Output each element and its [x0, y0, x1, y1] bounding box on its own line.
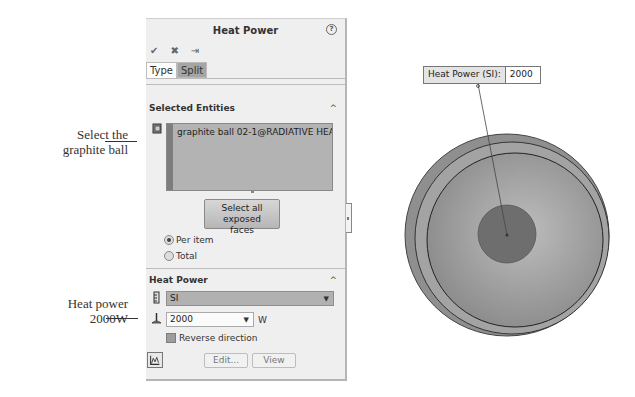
radio-button-selected[interactable]: [164, 235, 174, 245]
radio-label: Total: [176, 251, 197, 261]
panel-title: Heat Power: [146, 25, 345, 36]
list-resize-handle[interactable]: [251, 190, 254, 193]
select-all-exposed-faces-button[interactable]: Select all exposed faces: [204, 199, 280, 229]
tab-divider: [146, 78, 345, 79]
heat-power-icon: [151, 312, 162, 325]
list-item[interactable]: graphite ball 02-1@RADIATIVE HEAT TRA: [177, 127, 332, 137]
radio-button[interactable]: [164, 251, 174, 261]
heat-power-header[interactable]: Heat Power: [149, 275, 208, 285]
radio-label: Per item: [176, 235, 214, 245]
heat-power-property-manager: Heat Power ? ✔ ✖ ⇥ Type Split Selected E…: [146, 18, 347, 381]
annotation-heat-power: Heat power 2000W: [30, 296, 128, 326]
collapse-chevron-up-icon[interactable]: ^: [329, 275, 337, 285]
panel-tabs: Type Split: [146, 62, 207, 78]
heat-power-value-input[interactable]: 2000 ▼: [166, 312, 254, 327]
annotation-leader-select: [105, 141, 137, 142]
list-selection-stripe: [167, 124, 173, 190]
annotation-line-1: Heat power: [30, 296, 128, 311]
unit-label: W: [258, 315, 267, 325]
selected-entities-list[interactable]: graphite ball 02-1@RADIATIVE HEAT TRA: [166, 123, 333, 191]
reverse-direction-checkbox[interactable]: [166, 333, 176, 343]
view-button[interactable]: View: [252, 353, 296, 368]
panel-actions: ✔ ✖ ⇥: [150, 45, 199, 56]
callout-value[interactable]: 2000: [506, 67, 540, 83]
unit-system-select[interactable]: SI ▼: [166, 291, 334, 306]
pin-icon[interactable]: ⇥: [191, 45, 199, 56]
cancel-x-icon[interactable]: ✖: [170, 45, 178, 56]
button-label-line-1: Select all exposed: [205, 203, 279, 225]
face-selection-icon: [151, 123, 163, 135]
graphite-ball[interactable]: [478, 205, 536, 263]
outer-shell: [405, 134, 609, 336]
checkbox-label: Reverse direction: [179, 333, 257, 343]
panel-title-bar: Heat Power ?: [146, 19, 345, 39]
section-divider: [146, 84, 345, 85]
heat-power-callout[interactable]: Heat Power (SI): 2000: [423, 66, 541, 84]
panel-collapse-tab[interactable]: [346, 203, 352, 233]
section-divider: [146, 268, 345, 269]
radio-per-item[interactable]: Per item: [164, 235, 214, 245]
unit-system-icon: [151, 291, 162, 304]
collapse-chevron-up-icon[interactable]: ^: [329, 103, 337, 113]
select-value: SI: [170, 293, 178, 303]
tab-split[interactable]: Split: [177, 62, 207, 78]
annotation-leader-heat-power: [106, 318, 138, 319]
graph-icon[interactable]: [147, 352, 163, 368]
reverse-direction-checkbox-row[interactable]: Reverse direction: [166, 333, 257, 343]
edit-button[interactable]: Edit...: [204, 353, 248, 368]
ok-check-icon[interactable]: ✔: [150, 45, 158, 56]
callout-leader-line: [478, 84, 507, 235]
radio-total[interactable]: Total: [164, 251, 197, 261]
tab-type[interactable]: Type: [146, 62, 177, 78]
annotation-line-1: Select the: [30, 127, 128, 142]
callout-label: Heat Power (SI):: [424, 67, 506, 83]
selected-entities-header[interactable]: Selected Entities: [149, 103, 235, 113]
annotation-select-graphite-ball: Select the graphite ball: [30, 127, 128, 157]
dropdown-caret-icon[interactable]: ▼: [244, 316, 249, 324]
input-value: 2000: [170, 314, 193, 324]
help-icon[interactable]: ?: [326, 24, 337, 35]
dropdown-caret-icon[interactable]: ▼: [324, 295, 329, 303]
button-label-line-2: faces: [205, 225, 279, 236]
annotation-line-2: graphite ball: [30, 142, 128, 157]
